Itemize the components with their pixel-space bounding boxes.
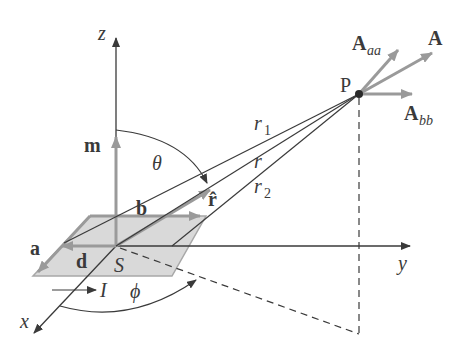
- point-P: [355, 90, 363, 98]
- r1-line: [64, 94, 359, 243]
- svg-text:1: 1: [264, 123, 271, 138]
- svg-text:bb: bb: [419, 113, 433, 128]
- A-aa-label: A aa: [352, 32, 381, 58]
- y-axis-label: y: [396, 252, 407, 275]
- P-label: P: [340, 74, 351, 96]
- x-axis-label: x: [19, 310, 29, 332]
- phi-label: ϕ: [130, 280, 140, 303]
- A-label: A: [428, 27, 443, 49]
- r-label: r: [254, 150, 262, 172]
- current-I-label: I: [99, 279, 108, 301]
- b-label: b: [136, 197, 147, 219]
- d-label: d: [76, 250, 87, 272]
- r2-line: [172, 94, 359, 246]
- m-label: m: [84, 134, 101, 156]
- area-S-label: S: [114, 254, 124, 276]
- z-axis-label: z: [97, 22, 106, 44]
- svg-text:r: r: [254, 175, 262, 197]
- theta-label: θ: [152, 152, 162, 174]
- r2-label: r 2: [254, 175, 271, 201]
- svg-text:2: 2: [264, 186, 271, 201]
- svg-text:A: A: [404, 102, 419, 124]
- dipole-diagram: z y x m θ b r̂ a d S I ϕ r 1 r r 2 P A a…: [0, 0, 464, 359]
- r-hat-label: r̂: [208, 188, 217, 210]
- projection-ground: [120, 248, 359, 334]
- svg-text:r: r: [254, 112, 262, 134]
- A-vector: [359, 53, 432, 94]
- A-bb-label: A bb: [404, 102, 433, 128]
- a-label: a: [30, 237, 40, 259]
- r1-label: r 1: [254, 112, 271, 138]
- svg-text:aa: aa: [367, 43, 381, 58]
- svg-text:A: A: [352, 32, 367, 54]
- phi-arc: [60, 280, 196, 312]
